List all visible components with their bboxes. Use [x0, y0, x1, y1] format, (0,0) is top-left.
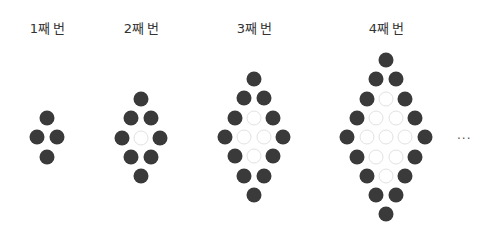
empty-dot [379, 130, 394, 145]
filled-dot [407, 149, 422, 164]
filled-dot [266, 149, 281, 164]
filled-dot [350, 110, 365, 125]
filled-dot [114, 130, 129, 145]
empty-dot [398, 130, 413, 145]
filled-dot [398, 91, 413, 106]
dot-pattern-sequence [0, 0, 499, 238]
empty-dot [379, 168, 394, 183]
filled-dot [247, 187, 262, 202]
filled-dot [379, 53, 394, 68]
filled-dot [143, 149, 158, 164]
filled-dot [379, 207, 394, 222]
filled-dot [275, 129, 290, 144]
empty-dot [388, 110, 403, 125]
filled-dot [40, 149, 55, 164]
filled-dot [227, 149, 242, 164]
filled-dot [237, 91, 252, 106]
filled-dot [256, 91, 271, 106]
filled-dot [30, 130, 45, 145]
filled-dot [134, 92, 149, 107]
filled-dot [369, 188, 384, 203]
empty-dot [379, 91, 394, 106]
empty-dot [237, 129, 252, 144]
filled-dot [227, 110, 242, 125]
empty-dot [134, 130, 149, 145]
filled-dot [388, 72, 403, 87]
filled-dot [40, 111, 55, 126]
filled-dot [369, 72, 384, 87]
filled-dot [49, 130, 64, 145]
filled-dot [134, 169, 149, 184]
filled-dot [359, 91, 374, 106]
empty-dot [369, 149, 384, 164]
filled-dot [124, 149, 139, 164]
filled-dot [398, 168, 413, 183]
empty-dot [369, 110, 384, 125]
filled-dot [153, 130, 168, 145]
empty-dot [388, 149, 403, 164]
filled-dot [143, 111, 158, 126]
filled-dot [247, 72, 262, 87]
filled-dot [359, 168, 374, 183]
filled-dot [218, 129, 233, 144]
filled-dot [266, 110, 281, 125]
filled-dot [417, 130, 432, 145]
filled-dot [350, 149, 365, 164]
continuation-ellipsis: ... [457, 128, 471, 142]
empty-dot [247, 110, 262, 125]
empty-dot [247, 149, 262, 164]
filled-dot [388, 188, 403, 203]
filled-dot [256, 168, 271, 183]
empty-dot [359, 130, 374, 145]
empty-dot [256, 129, 271, 144]
filled-dot [124, 111, 139, 126]
filled-dot [237, 168, 252, 183]
filled-dot [407, 110, 422, 125]
filled-dot [340, 130, 355, 145]
